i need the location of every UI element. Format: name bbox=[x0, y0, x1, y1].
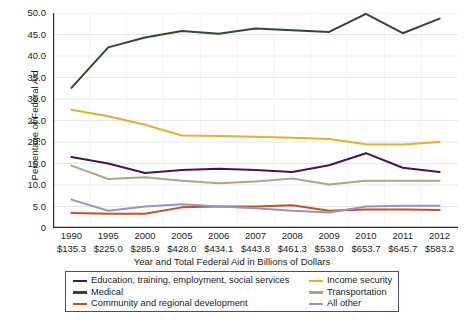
x-axis-year-label: 2008 bbox=[274, 230, 311, 241]
x-axis-amount-labels: $135.3$225.0$285.9$428.0$434.1$443.8$461… bbox=[53, 243, 458, 256]
legend-column-right: Income securityTransportationAll other bbox=[309, 275, 392, 310]
x-axis-amount-label: $645.7 bbox=[384, 243, 421, 254]
legend-column-left: Education, training, employment, social … bbox=[73, 275, 289, 310]
x-axis-amount-label: $434.1 bbox=[200, 243, 237, 254]
x-axis-year-label: 2005 bbox=[163, 230, 200, 241]
legend-label: Transportation bbox=[327, 287, 387, 298]
y-axis-tick-label: 35.0 bbox=[28, 73, 47, 83]
chart-legend: Education, training, employment, social … bbox=[65, 271, 399, 312]
y-axis-tick-label: 5.0 bbox=[33, 202, 46, 212]
x-axis-year-label: 2000 bbox=[127, 230, 164, 241]
legend-swatch-icon bbox=[309, 291, 323, 293]
legend-label: All other bbox=[327, 298, 361, 309]
legend-item-left-1[interactable]: Medical bbox=[73, 287, 289, 299]
x-axis-amount-label: $225.0 bbox=[90, 243, 127, 254]
legend-item-right-0[interactable]: Income security bbox=[309, 275, 392, 287]
legend-swatch-icon bbox=[73, 291, 87, 293]
legend-item-right-1[interactable]: Transportation bbox=[309, 287, 392, 299]
x-axis-year-labels: 1990199520002005200620072008200920102011… bbox=[53, 230, 458, 243]
y-axis-tick-label: 45.0 bbox=[28, 30, 47, 40]
legend-item-right-2[interactable]: All other bbox=[309, 298, 392, 310]
x-axis-year-label: 1995 bbox=[90, 230, 127, 241]
legend-label: Community and regional development bbox=[91, 298, 248, 309]
y-axis-tick-label: 40.0 bbox=[28, 51, 47, 61]
x-axis-year-label: 2006 bbox=[200, 230, 237, 241]
line-chart: Percentage of Federal Aid 50.045.040.035… bbox=[0, 0, 464, 322]
y-axis-tick-label: 10.0 bbox=[28, 180, 47, 190]
x-axis-year-label: 2009 bbox=[311, 230, 348, 241]
y-axis-tick-label: 25.0 bbox=[28, 116, 47, 126]
y-axis-tick-label: 30.0 bbox=[28, 94, 47, 104]
x-axis-year-label: 2012 bbox=[421, 230, 458, 241]
legend-swatch-icon bbox=[309, 303, 323, 305]
y-axis-tick-label: 20.0 bbox=[28, 137, 47, 147]
x-axis-year-label: 2007 bbox=[237, 230, 274, 241]
y-axis-tick-labels: 50.045.040.035.030.025.020.015.010.05.00 bbox=[0, 0, 50, 322]
x-axis-year-label: 2011 bbox=[384, 230, 421, 241]
y-axis-tick-label: 0 bbox=[41, 223, 46, 233]
legend-item-left-0[interactable]: Education, training, employment, social … bbox=[73, 275, 289, 287]
x-axis-amount-label: $538.0 bbox=[311, 243, 348, 254]
x-axis-amount-label: $653.7 bbox=[348, 243, 385, 254]
x-axis-amount-label: $443.8 bbox=[237, 243, 274, 254]
legend-swatch-icon bbox=[73, 280, 87, 282]
x-axis-amount-label: $428.0 bbox=[163, 243, 200, 254]
legend-swatch-icon bbox=[309, 280, 323, 282]
legend-item-left-2[interactable]: Community and regional development bbox=[73, 298, 289, 310]
y-axis-tick-label: 50.0 bbox=[28, 8, 47, 18]
legend-label: Medical bbox=[91, 287, 123, 298]
plot-area bbox=[53, 13, 458, 228]
x-axis-amount-label: $135.3 bbox=[53, 243, 90, 254]
legend-label: Education, training, employment, social … bbox=[91, 275, 289, 286]
legend-swatch-icon bbox=[73, 303, 87, 305]
y-axis-tick-label: 15.0 bbox=[28, 159, 47, 169]
x-axis-amount-label: $461.3 bbox=[274, 243, 311, 254]
x-axis-title: Year and Total Federal Aid in Billions o… bbox=[0, 256, 464, 267]
legend-label: Income security bbox=[327, 275, 392, 286]
plot-svg bbox=[53, 13, 458, 228]
x-axis-amount-label: $285.9 bbox=[127, 243, 164, 254]
x-axis-year-label: 1990 bbox=[53, 230, 90, 241]
x-axis-amount-label: $583.2 bbox=[421, 243, 458, 254]
x-axis-year-label: 2010 bbox=[348, 230, 385, 241]
